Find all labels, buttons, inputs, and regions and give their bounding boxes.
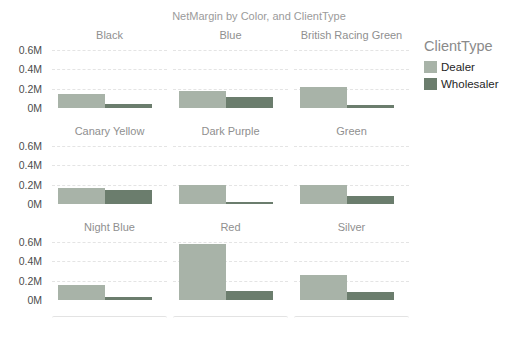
gridline: [294, 69, 409, 70]
legend-item-dealer[interactable]: Dealer: [424, 61, 516, 73]
y-axis-tick-label: 0.2M: [19, 179, 42, 191]
panels-grid: 0.6M0.4M0.2M0MBlackBlueBritish Racing Gr…: [2, 28, 409, 323]
bar-dealer[interactable]: [179, 91, 226, 108]
panel-title: Night Blue: [52, 220, 167, 236]
panel-blue: Blue: [173, 28, 288, 108]
panel-plot: [294, 44, 409, 108]
gridline: [52, 50, 167, 51]
gridline: [173, 69, 288, 70]
gridline: [294, 242, 409, 243]
bar-dealer[interactable]: [58, 188, 105, 204]
y-axis-tick-label: 0.6M: [19, 236, 42, 248]
panel-title: Black: [52, 28, 167, 44]
y-axis-tick-label: 0.4M: [19, 255, 42, 267]
panel-black: Black: [52, 28, 167, 108]
gridline: [294, 146, 409, 147]
gridline: [294, 165, 409, 166]
bar-wholesaler[interactable]: [226, 202, 273, 204]
panel-title: Dark Purple: [173, 124, 288, 140]
legend-title: ClientType: [424, 38, 516, 54]
bar-wholesaler[interactable]: [347, 292, 394, 300]
panel-silver: Silver: [294, 220, 409, 300]
panel-row: 0.6M0.4M0.2M0MNight BlueRedSilver: [2, 220, 409, 300]
bar-dealer[interactable]: [179, 244, 226, 300]
panel-plot: [294, 236, 409, 300]
wholesaler-swatch-icon: [424, 78, 437, 90]
panel-green: Green: [294, 124, 409, 204]
y-axis-tick-label: 0.4M: [19, 159, 42, 171]
panel-title: Red: [173, 220, 288, 236]
bar-wholesaler[interactable]: [347, 105, 394, 108]
panel-title: Blue: [173, 28, 288, 44]
y-axis-tick-label: 0M: [27, 294, 42, 306]
y-axis-tick-label: 0.6M: [19, 140, 42, 152]
panel-title: Silver: [294, 220, 409, 236]
bar-dealer[interactable]: [58, 285, 105, 300]
panel-night-blue: Night Blue: [52, 220, 167, 300]
gridline: [52, 261, 167, 262]
y-axis-tick-label: 0.2M: [19, 275, 42, 287]
gridline: [173, 146, 288, 147]
gridline: [173, 89, 288, 90]
gridline: [173, 165, 288, 166]
panel-plot: [173, 236, 288, 300]
next-row-panel-edge: [52, 316, 167, 323]
y-axis-tick-label: 0.2M: [19, 83, 42, 95]
panel-plot: [294, 140, 409, 204]
gridline: [294, 261, 409, 262]
panel-british-racing-green: British Racing Green: [294, 28, 409, 108]
bar-dealer[interactable]: [300, 275, 347, 300]
panel-dark-purple: Dark Purple: [173, 124, 288, 204]
panel-plot: [173, 44, 288, 108]
legend-item-wholesaler[interactable]: Wholesaler: [424, 78, 516, 90]
gridline: [52, 242, 167, 243]
gridline: [52, 146, 167, 147]
panel-row: 0.6M0.4M0.2M0MBlackBlueBritish Racing Gr…: [2, 28, 409, 108]
gridline: [52, 185, 167, 186]
gridline: [173, 242, 288, 243]
gridline: [52, 281, 167, 282]
net-margin-small-multiples-chart: NetMargin by Color, and ClientType 0.6M0…: [0, 0, 518, 343]
gridline: [52, 69, 167, 70]
bar-wholesaler[interactable]: [105, 104, 152, 108]
y-axis-tick-label: 0.4M: [19, 63, 42, 75]
bar-dealer[interactable]: [300, 87, 347, 108]
bar-wholesaler[interactable]: [347, 196, 394, 204]
bar-dealer[interactable]: [58, 94, 105, 108]
panel-canary-yellow: Canary Yellow: [52, 124, 167, 204]
panel-plot: [52, 236, 167, 300]
panel-title: British Racing Green: [294, 28, 409, 44]
panel-plot: [173, 140, 288, 204]
legend: ClientType Dealer Wholesaler: [424, 38, 516, 95]
gridline: [173, 50, 288, 51]
bar-wholesaler[interactable]: [105, 190, 152, 204]
legend-label: Dealer: [441, 61, 475, 73]
gridline: [52, 89, 167, 90]
bar-wholesaler[interactable]: [226, 97, 273, 108]
bar-dealer[interactable]: [300, 185, 347, 204]
y-axis-tick-label: 0M: [27, 198, 42, 210]
panel-title: Green: [294, 124, 409, 140]
panel-row: 0.6M0.4M0.2M0MCanary YellowDark PurpleGr…: [2, 124, 409, 204]
chart-title: NetMargin by Color, and ClientType: [0, 10, 518, 22]
y-axis-tick-label: 0.6M: [19, 44, 42, 56]
y-axis: 0.6M0.4M0.2M0M: [2, 124, 46, 204]
next-row-peek: [2, 316, 409, 323]
y-axis-tick-label: 0M: [27, 102, 42, 114]
y-axis: 0.6M0.4M0.2M0M: [2, 28, 46, 108]
bar-wholesaler[interactable]: [226, 291, 273, 300]
y-axis: 0.6M0.4M0.2M0M: [2, 220, 46, 300]
gridline: [52, 165, 167, 166]
dealer-swatch-icon: [424, 61, 437, 73]
legend-label: Wholesaler: [441, 78, 499, 90]
bar-wholesaler[interactable]: [105, 297, 152, 300]
panel-title: Canary Yellow: [52, 124, 167, 140]
panel-plot: [52, 140, 167, 204]
panel-red: Red: [173, 220, 288, 300]
panel-plot: [52, 44, 167, 108]
next-row-panel-edge: [294, 316, 409, 323]
next-row-panel-edge: [173, 316, 288, 323]
gridline: [294, 50, 409, 51]
bar-dealer[interactable]: [179, 185, 226, 204]
